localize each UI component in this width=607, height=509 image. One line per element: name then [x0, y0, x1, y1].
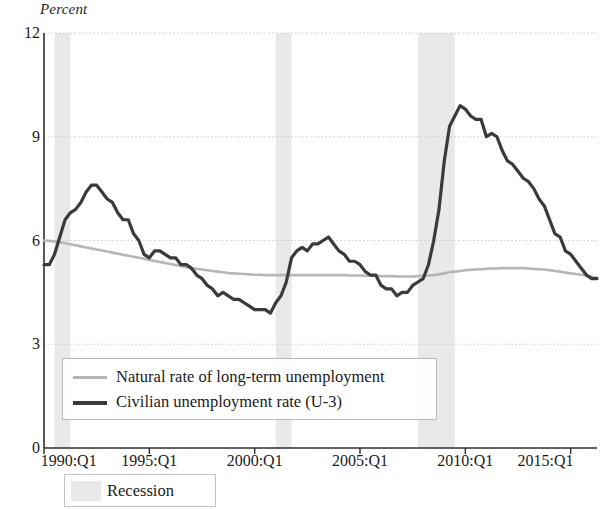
- legend-swatch-civilian-rate: [73, 401, 107, 405]
- unemployment-rate-chart: Percent 036912 1990:Q11995:Q12000:Q12005…: [0, 0, 607, 509]
- plot-canvas: [0, 0, 607, 509]
- series-legend: Natural rate of long-term unemployment C…: [62, 358, 437, 420]
- x-tick-label: 1990:Q1: [41, 452, 97, 470]
- legend-label-recession: Recession: [107, 481, 174, 501]
- gridlines: [44, 33, 597, 344]
- x-tick-label: 2010:Q1: [437, 452, 493, 470]
- legend-swatch-natural-rate: [73, 376, 107, 379]
- legend-label-natural-rate: Natural rate of long-term unemployment: [116, 369, 385, 386]
- data-series: [44, 106, 597, 314]
- recession-legend: Recession: [64, 474, 216, 507]
- legend-item-natural-rate: Natural rate of long-term unemployment: [73, 365, 426, 390]
- legend-label-civilian-rate: Civilian unemployment rate (U-3): [116, 394, 342, 411]
- legend-item-civilian-rate: Civilian unemployment rate (U-3): [73, 390, 426, 415]
- legend-swatch-recession: [71, 481, 101, 501]
- x-tick-label: 2015:Q1: [517, 452, 573, 470]
- x-tick-label: 1995:Q1: [121, 452, 177, 470]
- x-tick-label: 2005:Q1: [332, 452, 388, 470]
- x-tick-label: 2000:Q1: [227, 452, 283, 470]
